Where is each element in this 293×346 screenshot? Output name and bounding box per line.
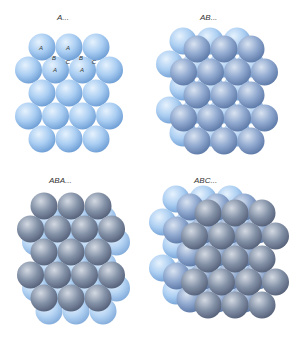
sphere (251, 105, 278, 132)
hole-label: C (92, 59, 97, 65)
sphere-label: A (79, 67, 84, 73)
sphere (251, 59, 278, 86)
sphere (208, 269, 235, 296)
sphere (44, 262, 71, 289)
sphere (71, 216, 98, 243)
hole-label: C (66, 59, 71, 65)
panel-abc: ABC... (146, 173, 293, 346)
sphere (85, 239, 112, 266)
sphere (15, 57, 42, 84)
sphere (184, 128, 211, 155)
sphere-layers-abc-diagram (146, 173, 293, 346)
sphere (42, 103, 69, 130)
sphere-layers-ab-diagram (146, 0, 293, 173)
sphere (83, 80, 110, 107)
sphere (71, 262, 98, 289)
sphere-label: A (38, 45, 43, 51)
hole-label: B (52, 55, 56, 61)
sphere (170, 105, 197, 132)
sphere (195, 246, 222, 273)
sphere (85, 285, 112, 312)
sphere (170, 59, 197, 86)
sphere-label: A (65, 45, 70, 51)
panel-aba: ABA... (0, 173, 146, 346)
sphere (262, 223, 289, 250)
sphere (69, 103, 96, 130)
sphere (224, 59, 251, 86)
sphere (85, 193, 112, 220)
sphere (181, 269, 208, 296)
sphere (235, 269, 262, 296)
sphere (211, 128, 238, 155)
sphere (31, 239, 58, 266)
sphere (238, 82, 265, 109)
layer-a (15, 34, 123, 153)
sphere (56, 126, 83, 153)
sphere (31, 285, 58, 312)
sphere (184, 36, 211, 63)
sphere (238, 128, 265, 155)
sphere (195, 292, 222, 319)
sphere (58, 239, 85, 266)
sphere (262, 269, 289, 296)
sphere (222, 246, 249, 273)
sphere-label: A (52, 67, 57, 73)
sphere (184, 82, 211, 109)
layer-c (181, 200, 289, 319)
panel-a: A... AAAABCBC (0, 0, 146, 173)
sphere (235, 223, 262, 250)
sphere-layers-aba-diagram (0, 173, 146, 346)
sphere (224, 105, 251, 132)
sphere (249, 292, 276, 319)
sphere (56, 80, 83, 107)
sphere (98, 216, 125, 243)
sphere (211, 36, 238, 63)
hole-label: B (79, 55, 83, 61)
sphere (222, 292, 249, 319)
sphere (222, 200, 249, 227)
sphere (29, 126, 56, 153)
sphere (208, 223, 235, 250)
sphere (58, 193, 85, 220)
sphere (181, 223, 208, 250)
sphere (44, 216, 71, 243)
sphere (195, 200, 222, 227)
sphere (17, 262, 44, 289)
sphere (96, 57, 123, 84)
sphere (98, 262, 125, 289)
sphere (197, 59, 224, 86)
sphere (83, 34, 110, 61)
sphere (211, 82, 238, 109)
layer-b (170, 36, 278, 155)
sphere (17, 216, 44, 243)
sphere (238, 36, 265, 63)
sphere (249, 246, 276, 273)
sphere (249, 200, 276, 227)
sphere (31, 193, 58, 220)
sphere (96, 103, 123, 130)
sphere (58, 285, 85, 312)
sphere (197, 105, 224, 132)
sphere (29, 80, 56, 107)
sphere-layer-a-diagram: AAAABCBC (0, 0, 146, 173)
panel-ab: AB... (146, 0, 293, 173)
sphere (15, 103, 42, 130)
sphere (83, 126, 110, 153)
